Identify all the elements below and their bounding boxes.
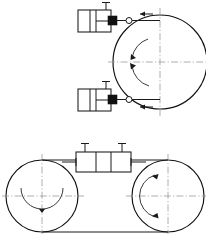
center-cylinder-barrel	[76, 152, 131, 172]
technical-drawing-svg	[0, 0, 206, 234]
bottom-view-group	[2, 143, 206, 234]
lower-piston-block	[108, 95, 117, 104]
caption-strip	[0, 224, 206, 234]
rotation-arc-upper	[132, 39, 148, 58]
upper-flow-arrow-head	[140, 12, 145, 17]
rotation-arrow-lower	[130, 63, 136, 70]
center-pneumatic-cylinder	[62, 143, 146, 172]
rotation-arrow-right-drum-top	[152, 174, 159, 180]
rotation-arrow-left-drum	[39, 209, 45, 213]
lower-rod-end-joint	[126, 97, 132, 103]
upper-rod-end-joint	[126, 18, 132, 24]
rotation-arc-lower	[132, 66, 149, 86]
rotation-arrow-right-drum-bottom	[152, 213, 159, 219]
upper-piston-block	[108, 16, 117, 25]
rotation-arrow-upper	[131, 54, 137, 60]
top-view-group	[78, 2, 206, 116]
technical-drawing-canvas	[0, 0, 206, 234]
